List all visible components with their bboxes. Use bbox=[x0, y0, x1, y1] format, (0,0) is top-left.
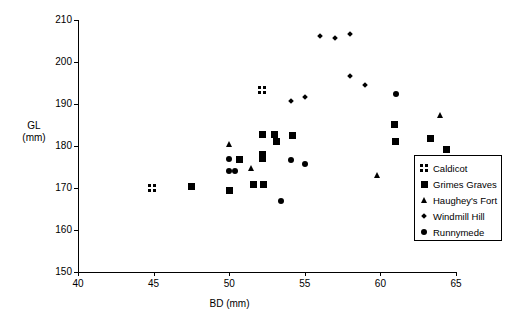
marker-square bbox=[289, 132, 296, 139]
marker-triangle bbox=[248, 165, 254, 171]
marker-diamond bbox=[317, 33, 323, 39]
marker-square bbox=[236, 156, 243, 163]
x-tick-label: 60 bbox=[365, 279, 395, 289]
marker-circle bbox=[288, 157, 294, 163]
legend-label: Windmill Hill bbox=[433, 211, 485, 222]
marker-diamond bbox=[288, 98, 294, 104]
marker-square bbox=[391, 121, 398, 128]
marker-square bbox=[188, 183, 195, 190]
x-axis-tick bbox=[229, 272, 230, 276]
marker-circle bbox=[421, 229, 427, 235]
legend-swatch bbox=[419, 179, 429, 189]
y-tick-label-group: 150160170180190200210 bbox=[40, 0, 72, 323]
x-tick-label: 50 bbox=[214, 279, 244, 289]
legend-item-haughey-s-fort: Haughey's Fort bbox=[419, 192, 498, 208]
x-axis-tick bbox=[456, 272, 457, 276]
x-tick-label: 45 bbox=[139, 279, 169, 289]
scatter-plot-figure: GL (mm) 150160170180190200210 4045505560… bbox=[0, 0, 519, 323]
marker-circle bbox=[393, 91, 399, 97]
marker-triangle bbox=[226, 141, 232, 147]
legend-label: Haughey's Fort bbox=[433, 195, 497, 206]
marker-square bbox=[259, 131, 266, 138]
x-axis-line bbox=[78, 272, 456, 273]
marker-diamond bbox=[347, 73, 353, 79]
marker-circle bbox=[278, 198, 284, 204]
marker-square bbox=[259, 155, 266, 162]
marker-triangle bbox=[421, 197, 427, 203]
legend-label: Caldicot bbox=[433, 163, 467, 174]
legend-item-windmill-hill: Windmill Hill bbox=[419, 208, 498, 224]
x-axis-title-text: BD (mm) bbox=[210, 298, 250, 310]
legend-item-caldicot: Caldicot bbox=[419, 160, 498, 176]
marker-square bbox=[443, 146, 450, 153]
marker-grid2x2 bbox=[148, 184, 156, 192]
x-tick-label: 40 bbox=[63, 279, 93, 289]
marker-square bbox=[273, 138, 280, 145]
x-axis-tick bbox=[380, 272, 381, 276]
legend-item-grimes-graves: Grimes Graves bbox=[419, 176, 498, 192]
legend-item-runnymede: Runnymede bbox=[419, 224, 498, 240]
x-axis-tick bbox=[154, 272, 155, 276]
legend-swatch bbox=[419, 163, 429, 173]
legend-label: Grimes Graves bbox=[433, 179, 497, 190]
marker-square bbox=[250, 181, 257, 188]
y-tick-label: 200 bbox=[44, 57, 72, 67]
y-tick-label: 150 bbox=[44, 267, 72, 277]
x-axis-title: BD (mm) bbox=[0, 298, 519, 310]
marker-triangle bbox=[437, 112, 443, 118]
y-tick-label: 190 bbox=[44, 99, 72, 109]
y-tick-label: 180 bbox=[44, 141, 72, 151]
y-tick-label: 210 bbox=[44, 15, 72, 25]
marker-circle bbox=[226, 156, 232, 162]
marker-grid2x2 bbox=[258, 86, 266, 94]
marker-diamond bbox=[332, 35, 338, 41]
marker-diamond bbox=[302, 94, 308, 100]
marker-square bbox=[427, 135, 434, 142]
legend-swatch bbox=[419, 211, 429, 221]
marker-square bbox=[260, 181, 267, 188]
marker-square bbox=[421, 181, 428, 188]
marker-diamond bbox=[421, 213, 427, 219]
marker-diamond bbox=[347, 31, 353, 37]
marker-square bbox=[226, 187, 233, 194]
legend-swatch bbox=[419, 195, 429, 205]
legend-swatch bbox=[419, 227, 429, 237]
x-axis-tick bbox=[305, 272, 306, 276]
x-tick-label: 65 bbox=[441, 279, 471, 289]
x-axis-tick bbox=[78, 272, 79, 276]
marker-diamond bbox=[362, 82, 368, 88]
marker-square bbox=[392, 138, 399, 145]
marker-circle bbox=[232, 168, 238, 174]
legend: CaldicotGrimes GravesHaughey's FortWindm… bbox=[414, 155, 502, 241]
marker-grid2x2 bbox=[420, 164, 428, 172]
y-tick-label: 170 bbox=[44, 183, 72, 193]
marker-circle bbox=[302, 161, 308, 167]
marker-square bbox=[271, 131, 278, 138]
plot-area bbox=[78, 20, 456, 272]
y-tick-label: 160 bbox=[44, 225, 72, 235]
x-tick-label: 55 bbox=[290, 279, 320, 289]
legend-label: Runnymede bbox=[433, 227, 484, 238]
marker-triangle bbox=[374, 172, 380, 178]
